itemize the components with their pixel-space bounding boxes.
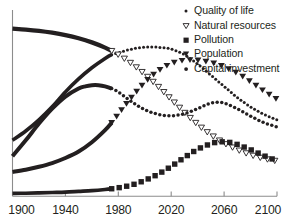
legend-item-label: Capital investment bbox=[194, 61, 279, 75]
x-tick-label-1900: 1900 bbox=[8, 203, 34, 217]
filled-dot-icon bbox=[182, 61, 192, 75]
x-tick-label-2020: 2020 bbox=[158, 203, 184, 217]
filled-down-triangle-icon bbox=[182, 46, 192, 60]
legend-item-natural-resources[interactable]: Natural resources bbox=[182, 17, 288, 31]
x-tick-label-1980: 1980 bbox=[105, 203, 131, 217]
legend-item-label: Pollution bbox=[194, 32, 234, 46]
legend-item-label: Natural resources bbox=[194, 18, 276, 32]
filled-square-icon bbox=[182, 32, 192, 46]
legend-item-quality-of-life[interactable]: Quality of life bbox=[182, 3, 288, 17]
x-tick-label-2100: 2100 bbox=[255, 203, 281, 217]
legend-item-label: Quality of life bbox=[194, 3, 254, 17]
open-down-triangle-icon bbox=[182, 18, 192, 32]
chart-legend: Quality of lifeNatural resourcesPollutio… bbox=[182, 3, 288, 75]
x-tick-label-1940: 1940 bbox=[52, 203, 78, 217]
world-model-chart: 190019401980202020602100 Quality of life… bbox=[0, 0, 288, 221]
legend-item-capital-investment[interactable]: Capital investment bbox=[182, 61, 288, 75]
small-dot-icon bbox=[182, 3, 192, 17]
series-pollution bbox=[13, 139, 278, 193]
legend-item-population[interactable]: Population bbox=[182, 46, 288, 60]
x-tick-label-2060: 2060 bbox=[211, 203, 237, 217]
legend-item-label: Population bbox=[194, 46, 243, 60]
legend-item-pollution[interactable]: Pollution bbox=[182, 32, 288, 46]
